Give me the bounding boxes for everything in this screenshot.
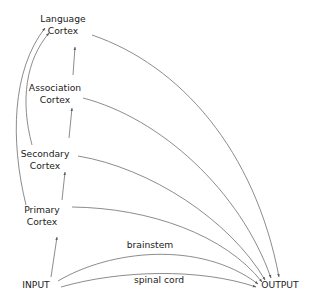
edge-input-to-primary	[51, 237, 57, 277]
node-primary-cortex-line1: Primary	[24, 204, 60, 215]
node-output: OUTPUT	[261, 279, 299, 290]
node-association-cortex-line2: Cortex	[40, 94, 71, 105]
brain-hierarchy-diagram: Language Cortex Association Cortex Secon…	[0, 0, 309, 304]
node-secondary-cortex-line1: Secondary	[21, 148, 70, 159]
node-secondary-cortex-line2: Cortex	[30, 160, 61, 171]
node-primary-cortex-line2: Cortex	[27, 216, 58, 227]
node-language-cortex-line1: Language	[40, 13, 86, 24]
node-association-cortex-line1: Association	[29, 82, 81, 93]
edge-language-to-output	[92, 35, 279, 277]
edge-label-spinal-cord: spinal cord	[134, 274, 184, 285]
node-language-cortex-line2: Cortex	[48, 25, 79, 36]
node-input: INPUT	[22, 279, 50, 290]
edge-association-to-output	[83, 98, 271, 278]
edge-primary-to-language	[16, 28, 45, 205]
edge-association-to-language	[73, 47, 75, 75]
edge-label-brainstem: brainstem	[127, 239, 174, 250]
edge-primary-to-secondary	[62, 172, 65, 200]
edge-secondary-to-association	[69, 108, 72, 138]
